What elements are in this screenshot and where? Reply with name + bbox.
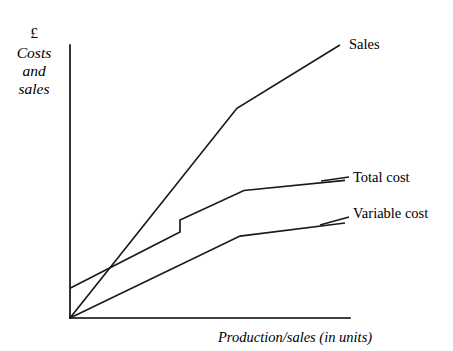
- y-axis-caption-line-1: Costs: [0, 44, 68, 62]
- variable-cost-series-line: [70, 223, 345, 318]
- total-cost-series-label: Total cost: [353, 169, 410, 186]
- cost-volume-profit-chart: £ Costs and sales Sales Total cost Varia…: [0, 0, 453, 351]
- total-cost-series-line: [70, 180, 345, 288]
- variable-cost-series-label: Variable cost: [353, 205, 428, 222]
- sales-series-label: Sales: [349, 36, 380, 53]
- y-axis-caption: £ Costs and sales: [0, 24, 68, 98]
- x-axis-caption: Production/sales (in units): [218, 329, 372, 346]
- y-axis-caption-line-2: and: [0, 62, 68, 80]
- sales-series-line: [70, 45, 340, 318]
- currency-symbol: £: [0, 24, 68, 42]
- y-axis-caption-line-3: sales: [0, 80, 68, 98]
